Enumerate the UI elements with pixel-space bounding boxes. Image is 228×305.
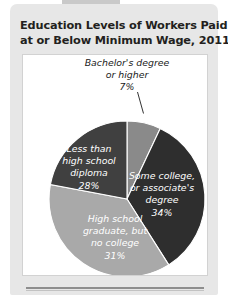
hs-graduate-label-line-2: graduate, but bbox=[83, 225, 147, 236]
some-college-label-line-3: degree bbox=[145, 194, 178, 205]
hs-graduate-label-line-3: no college bbox=[91, 237, 139, 248]
hs-graduate-label-line-1: High school bbox=[88, 213, 143, 224]
bachelors-label-value: 7% bbox=[120, 81, 135, 92]
title-line-2: at or Below Minimum Wage, 2011 bbox=[20, 33, 208, 48]
footer-rule bbox=[26, 287, 204, 289]
chart-card: Education Levels of Workers Paid at or B… bbox=[10, 4, 218, 295]
some-college-label-value: 34% bbox=[152, 207, 173, 218]
page-title: Education Levels of Workers Paid at or B… bbox=[20, 18, 208, 48]
bachelors-label-line-1: Bachelor's degree bbox=[85, 57, 170, 68]
pie-chart: Bachelor's degree or higher 7% Some coll… bbox=[23, 55, 208, 276]
some-college-label-line-1: Some college, bbox=[129, 170, 195, 181]
footer-rule-shadow bbox=[26, 290, 204, 291]
less-than-hs-label-line-1: Less than bbox=[66, 143, 111, 154]
pie-chart-figure: Education Levels of Workers Paid at or B… bbox=[0, 0, 228, 305]
some-college-label-line-2: or associate's bbox=[130, 182, 194, 193]
less-than-hs-label-line-3: diploma bbox=[70, 167, 108, 178]
bachelors-label-line-2: or higher bbox=[106, 69, 150, 80]
title-line-1: Education Levels of Workers Paid bbox=[20, 18, 208, 33]
hs-graduate-label-value: 31% bbox=[105, 250, 126, 261]
plot-panel: Bachelor's degree or higher 7% Some coll… bbox=[22, 54, 208, 276]
less-than-hs-label-line-2: high school bbox=[62, 155, 116, 166]
bachelors-leader-line bbox=[138, 92, 144, 114]
less-than-hs-label-value: 28% bbox=[79, 180, 100, 191]
